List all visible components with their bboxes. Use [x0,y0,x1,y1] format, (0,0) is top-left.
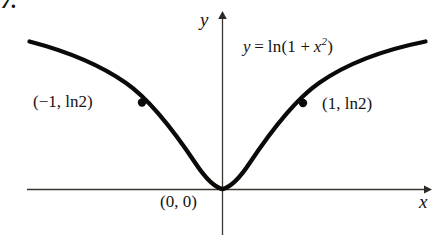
y-axis-arrowhead-icon [218,11,227,19]
point-label-origin: (0, 0) [160,193,197,210]
data-point-marker-right [299,99,307,107]
function-plot-svg [0,0,438,244]
graph-figure: 7. y x y = ln(1 + x2) (−1, ln2) (1, ln2)… [0,0,438,244]
point-label-negative-one: (−1, ln2) [33,93,93,110]
problem-number: 7. [1,0,17,12]
point-label-one: (1, ln2) [322,95,372,112]
equation-equals: = [254,37,264,56]
data-point-marker-left [138,98,146,106]
y-axis [218,11,227,235]
x-axis-label: x [419,192,427,211]
equation-variable: x [314,37,322,56]
equation-close-paren: ) [327,37,333,56]
y-axis-label: y [200,10,208,29]
equation-function: ln(1 + [268,37,310,56]
equation-annotation: y = ln(1 + x2) [243,38,333,55]
curve-ln-1-plus-x-squared [30,42,426,190]
equation-lhs: y [243,37,251,56]
